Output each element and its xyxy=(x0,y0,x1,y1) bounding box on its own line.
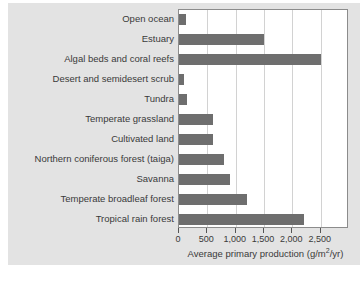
plot-area xyxy=(178,9,348,228)
chart-figure: Open oceanEstuaryAlgal beds and coral re… xyxy=(0,0,362,285)
bar xyxy=(179,54,321,65)
x-tick-1000 xyxy=(235,228,236,233)
category-label: Northern coniferous forest (taiga) xyxy=(35,153,174,164)
bar xyxy=(179,14,186,25)
x-axis-tick-labels: 05001,0001,5002,0002,500 xyxy=(150,234,362,247)
bar xyxy=(179,34,264,45)
x-tick-label: 0 xyxy=(175,234,180,244)
category-label: Cultivated land xyxy=(111,133,174,144)
x-tick-label: 2,500 xyxy=(308,234,331,244)
bar xyxy=(179,214,304,225)
x-tick-1500 xyxy=(263,228,264,233)
x-tick-label: 500 xyxy=(199,234,214,244)
x-tick-label: 1,500 xyxy=(252,234,275,244)
bar xyxy=(179,114,213,125)
x-tick-0 xyxy=(178,228,179,233)
bar xyxy=(179,174,230,185)
category-label: Algal beds and coral reefs xyxy=(64,53,174,64)
category-label: Open ocean xyxy=(122,13,174,24)
category-axis-labels: Open oceanEstuaryAlgal beds and coral re… xyxy=(0,9,176,228)
bar xyxy=(179,94,187,105)
bar xyxy=(179,194,247,205)
axis-title-superscript: 2 xyxy=(326,247,330,254)
bar xyxy=(179,154,224,165)
category-label: Temperate grassland xyxy=(85,113,174,124)
category-label: Tundra xyxy=(144,93,174,104)
category-label: Temperate broadleaf forest xyxy=(60,193,174,204)
category-label: Estuary xyxy=(142,33,174,44)
x-tick-label: 2,000 xyxy=(280,234,303,244)
x-axis-title: Average primary production (g/m2/yr) xyxy=(178,248,353,259)
category-label: Tropical rain forest xyxy=(96,213,174,224)
bars-layer xyxy=(179,10,347,227)
x-tick-label: 1,000 xyxy=(223,234,246,244)
x-tick-2000 xyxy=(291,228,292,233)
category-label: Desert and semidesert scrub xyxy=(53,73,174,84)
x-tick-2500 xyxy=(320,228,321,233)
x-tick-500 xyxy=(206,228,207,233)
category-label: Savanna xyxy=(136,173,174,184)
bar xyxy=(179,134,213,145)
bar xyxy=(179,74,184,85)
